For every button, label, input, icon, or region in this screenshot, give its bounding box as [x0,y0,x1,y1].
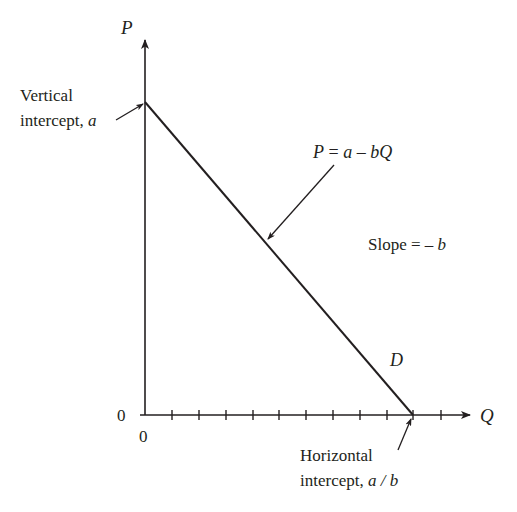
vertical-intercept-arrow [116,104,143,120]
demand-curve-diagram: P Q 0 0 Vertical intercept, a P = a – bQ… [0,0,517,512]
y-axis-label: P [120,17,133,38]
vertical-intercept-label-line1: Vertical [20,86,73,105]
vertical-intercept-label-line2: intercept, a [20,111,96,130]
y-origin-label: 0 [117,406,126,425]
x-origin-label: 0 [139,427,148,446]
demand-equation-label: P = a – bQ [312,142,392,162]
slope-label: Slope = – b [368,235,446,254]
horizontal-intercept-arrow [398,419,411,450]
demand-curve-label: D [389,350,403,370]
equation-arrow [268,165,334,239]
horizontal-intercept-label-line2: intercept, a / b [300,471,398,490]
x-axis-label: Q [480,405,494,426]
horizontal-intercept-label-line1: Horizontal [300,446,373,465]
diagram-svg: P Q 0 0 Vertical intercept, a P = a – bQ… [0,0,517,512]
